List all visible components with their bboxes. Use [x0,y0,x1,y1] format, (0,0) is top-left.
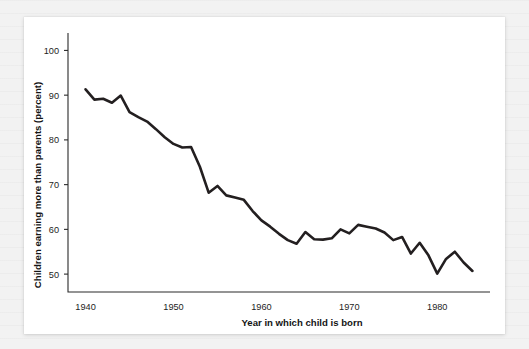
y-tick-label: 70 [49,180,59,190]
y-axis-title: Children earning more than parents (perc… [32,82,43,288]
x-tick-label: 1970 [339,302,359,312]
y-axis-ticks [64,50,68,274]
y-tick-label: 60 [49,225,59,235]
x-tick-label: 1960 [251,302,271,312]
x-axis-title: Year in which child is born [241,317,362,328]
x-tick-label: 1980 [427,302,447,312]
x-tick-label: 1950 [163,302,183,312]
line-chart: 5060708090100 19401950196019701980 Year … [24,17,505,334]
x-tick-label: 1940 [75,302,95,312]
data-series-line [86,89,473,273]
y-tick-label: 90 [49,91,59,101]
y-tick-label: 100 [44,46,59,56]
chart-card: 5060708090100 19401950196019701980 Year … [24,17,505,334]
y-tick-label: 80 [49,135,59,145]
figure-page: 5060708090100 19401950196019701980 Year … [0,0,529,349]
x-axis-tick-labels: 19401950196019701980 [75,302,447,312]
y-tick-label: 50 [49,270,59,280]
y-axis-tick-labels: 5060708090100 [44,46,59,280]
